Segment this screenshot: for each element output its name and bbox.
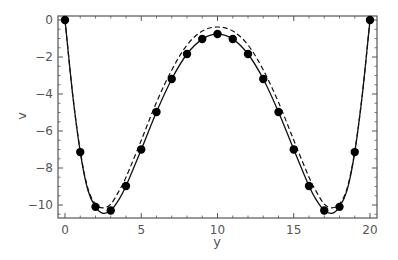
y-tick-label: −8	[35, 161, 53, 175]
data-point	[198, 35, 206, 43]
y-tick-label: −6	[35, 124, 53, 138]
data-point	[366, 16, 374, 24]
data-point	[335, 203, 343, 211]
y-tick-label: 0	[45, 13, 53, 27]
data-point	[107, 206, 115, 214]
data-point	[305, 182, 313, 190]
data-point	[168, 75, 176, 83]
data-point	[76, 148, 84, 156]
data-point	[290, 145, 298, 153]
data-point	[91, 203, 99, 211]
chart: 051015200−2−4−6−8−10 y v	[0, 0, 398, 260]
dashed-curve	[65, 20, 370, 208]
data-point	[137, 145, 145, 153]
y-tick-label: −2	[35, 50, 53, 64]
data-point	[320, 206, 328, 214]
plot-frame	[58, 16, 377, 218]
data-point	[244, 50, 252, 58]
data-point	[61, 16, 69, 24]
data-point	[259, 75, 267, 83]
x-tick-label: 0	[61, 223, 69, 237]
axis-ticks	[58, 16, 377, 218]
data-point	[213, 30, 221, 38]
data-point	[351, 148, 359, 156]
data-point	[122, 182, 130, 190]
plot-curves	[65, 20, 370, 213]
data-points	[61, 16, 374, 215]
y-tick-label: −4	[35, 87, 53, 101]
y-axis-label: v	[14, 112, 29, 120]
data-point	[274, 108, 282, 116]
data-point	[183, 50, 191, 58]
x-tick-label: 15	[286, 223, 301, 237]
data-point	[152, 108, 160, 116]
tick-labels: 051015200−2−4−6−8−10	[28, 13, 378, 237]
data-point	[229, 35, 237, 43]
x-axis-label: y	[213, 234, 221, 249]
solid-curve	[65, 20, 370, 213]
x-tick-label: 20	[362, 223, 377, 237]
y-tick-label: −10	[28, 198, 53, 212]
x-tick-label: 5	[137, 223, 145, 237]
